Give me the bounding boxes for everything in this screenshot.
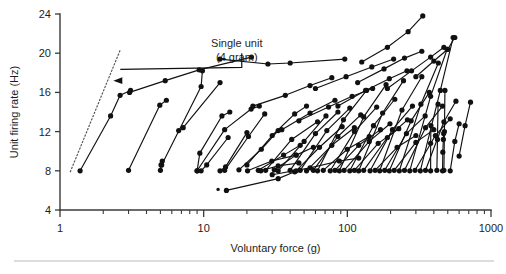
unit-57: [423, 99, 459, 173]
data-point-marker: [276, 168, 281, 173]
unit-33: [313, 56, 396, 91]
unit-63: [448, 121, 462, 173]
data-point-marker: [317, 145, 322, 150]
data-point-marker: [78, 168, 83, 173]
data-point-marker: [409, 68, 414, 73]
y-tick-label: 8: [45, 165, 51, 177]
data-point-marker: [298, 168, 303, 173]
data-point-marker: [226, 135, 231, 140]
data-point-marker: [445, 47, 450, 52]
data-point-marker: [281, 153, 286, 158]
data-point-marker: [441, 119, 446, 124]
data-point-marker: [442, 129, 447, 134]
data-point-marker: [376, 141, 381, 146]
data-point-marker: [397, 168, 402, 173]
data-point-marker: [359, 59, 364, 64]
unit-07: [194, 109, 232, 173]
annotation-text-line: (4 gram): [216, 51, 258, 63]
data-point-marker: [283, 93, 288, 98]
data-point-marker: [194, 168, 199, 173]
data-point-marker: [347, 168, 352, 173]
data-point-marker: [288, 60, 293, 65]
x-tick-label: 1000: [479, 222, 503, 234]
data-point-marker: [335, 109, 340, 114]
data-point-marker: [222, 168, 227, 173]
data-point-marker: [392, 168, 397, 173]
annotation-text-line: Single unit: [211, 37, 262, 49]
data-point-marker: [356, 168, 361, 173]
stray-marker-low: [216, 188, 219, 191]
data-point-marker: [453, 99, 458, 104]
data-point-marker: [343, 74, 348, 79]
data-point-marker: [361, 168, 366, 173]
data-point-marker: [270, 133, 275, 138]
data-point-marker: [381, 66, 386, 71]
data-point-marker: [406, 29, 411, 34]
data-point-marker: [428, 123, 433, 128]
data-point-marker: [361, 114, 366, 119]
data-point-marker: [385, 45, 390, 50]
data-point-marker: [224, 188, 229, 193]
unit-01: [78, 88, 134, 174]
series-line: [450, 124, 459, 171]
data-point-marker: [127, 90, 132, 95]
data-point-marker: [219, 113, 224, 118]
data-point-marker: [342, 56, 347, 61]
data-point-marker: [428, 168, 433, 173]
data-point-marker: [410, 104, 415, 109]
data-point-marker: [163, 78, 168, 83]
series-line: [380, 77, 422, 171]
data-point-marker: [374, 105, 379, 110]
data-point-marker: [164, 98, 169, 103]
data-point-marker: [304, 104, 309, 109]
data-point-marker: [462, 123, 467, 128]
data-point-marker: [452, 35, 457, 40]
data-point-marker: [457, 121, 462, 126]
x-tick-label: 100: [338, 222, 356, 234]
chart-canvas: 48121620241101001000Voluntary force (g)U…: [0, 0, 506, 274]
data-point-marker: [409, 118, 414, 123]
series-line: [459, 102, 470, 156]
data-point-marker: [181, 125, 186, 130]
unit-61: [440, 131, 446, 173]
data-point-marker: [436, 60, 441, 65]
data-point-marker: [435, 102, 440, 107]
series-line: [225, 114, 265, 170]
data-point-marker: [315, 168, 320, 173]
data-point-marker: [326, 105, 331, 110]
data-point-marker: [419, 74, 424, 79]
data-point-marker: [328, 168, 333, 173]
data-point-marker: [276, 176, 281, 181]
y-tick-label: 4: [45, 204, 51, 216]
data-point-marker: [244, 162, 249, 167]
x-tick-label: 1: [57, 222, 63, 234]
data-point-marker: [356, 143, 361, 148]
y-tick-label: 20: [39, 47, 51, 59]
annotations-group: Single unit(4 gram): [113, 37, 262, 84]
series-line: [226, 172, 294, 191]
data-point-marker: [332, 98, 337, 103]
data-point-marker: [468, 100, 473, 105]
unit-20: [250, 75, 334, 109]
data-point-marker: [265, 61, 270, 66]
data-point-marker: [418, 168, 423, 173]
data-point-marker: [355, 80, 360, 85]
unit-51: [385, 45, 447, 91]
data-point-marker: [263, 168, 268, 173]
data-point-marker: [321, 168, 326, 173]
data-point-marker: [157, 103, 162, 108]
data-point-marker: [236, 167, 241, 172]
series-line: [162, 71, 203, 165]
data-point-marker: [289, 137, 294, 142]
data-point-marker: [402, 56, 407, 61]
y-tick-label: 16: [39, 86, 51, 98]
data-point-marker: [313, 86, 318, 91]
data-point-marker: [288, 168, 293, 173]
data-point-marker: [419, 49, 424, 54]
data-point-marker: [371, 123, 376, 128]
data-point-marker: [335, 104, 340, 109]
data-point-marker: [387, 168, 392, 173]
data-point-marker: [387, 121, 392, 126]
data-point-marker: [434, 168, 439, 173]
data-point-marker: [448, 116, 453, 121]
